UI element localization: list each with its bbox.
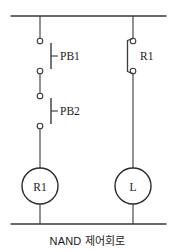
pb1-label: PB1 (60, 50, 80, 62)
pb2-label: PB2 (60, 105, 80, 117)
right-branch: R1 L (115, 16, 154, 224)
pb1-lower-terminal (37, 68, 43, 74)
r1-contact-label: R1 (140, 50, 154, 62)
pb2-upper-terminal (37, 93, 43, 99)
coil-l-label: L (129, 181, 136, 193)
contact-pb2[interactable]: PB2 (37, 93, 80, 129)
coil-l[interactable]: L (115, 168, 151, 204)
coil-r1-label: R1 (33, 181, 47, 193)
contact-pb1[interactable]: PB1 (37, 38, 80, 74)
contact-r1[interactable]: R1 (128, 38, 154, 74)
ladder-diagram-page: PB1 PB2 R1 (0, 0, 175, 252)
pb2-lower-terminal (37, 123, 43, 129)
ladder-diagram: PB1 PB2 R1 (0, 0, 175, 232)
diagram-caption: NAND 제어회로 (0, 232, 175, 248)
coil-r1[interactable]: R1 (22, 168, 58, 204)
pb1-upper-terminal (37, 38, 43, 44)
left-branch: PB1 PB2 R1 (22, 16, 80, 224)
